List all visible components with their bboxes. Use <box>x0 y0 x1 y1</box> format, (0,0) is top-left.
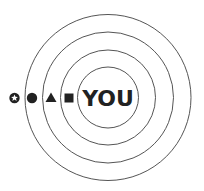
circle-icon <box>27 93 37 103</box>
square-icon <box>65 94 74 103</box>
you-label: YOU <box>81 86 134 111</box>
triangle-icon <box>46 93 57 103</box>
concentric-circles-diagram: YOU <box>0 0 204 191</box>
star-badge-icon <box>9 93 19 103</box>
